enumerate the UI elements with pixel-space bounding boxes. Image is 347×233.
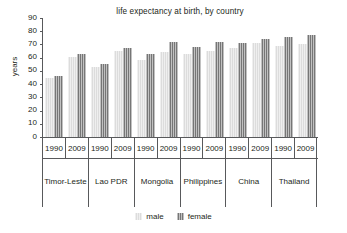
bar-group — [89, 18, 112, 137]
bar-male — [229, 48, 238, 137]
y-tick-label: 70 — [3, 39, 37, 48]
y-tick-label: 60 — [3, 52, 37, 61]
y-tick-label: 10 — [3, 118, 37, 127]
year-label-1990: 1990 — [134, 138, 157, 158]
bar-female — [215, 42, 224, 137]
bar-group — [43, 18, 66, 137]
year-label-1990: 1990 — [225, 138, 248, 158]
legend-swatch-female — [177, 213, 184, 220]
country-label-lao-pdr: Lao PDR — [88, 157, 134, 207]
y-tick-label: 0 — [3, 132, 37, 141]
year-label-2009: 2009 — [157, 138, 180, 158]
country-label-timor-leste: Timor-Leste — [42, 157, 88, 207]
bar-female — [100, 64, 109, 137]
bar-male — [206, 51, 215, 137]
year-label-2009: 2009 — [248, 138, 271, 158]
bar-group — [66, 18, 89, 137]
year-label-1990: 1990 — [180, 138, 203, 158]
bar-male — [275, 46, 284, 137]
legend-label: male — [146, 212, 163, 221]
bar-female — [192, 47, 201, 137]
country-label-mongolia: Mongolia — [134, 157, 180, 207]
year-label-2009: 2009 — [202, 138, 225, 158]
year-label-2009: 2009 — [111, 138, 134, 158]
bar-male — [298, 44, 307, 137]
bar-female — [261, 39, 270, 138]
bar-male — [68, 57, 77, 137]
bar-group — [272, 18, 295, 137]
y-tick-label: 50 — [3, 65, 37, 74]
bar-male — [91, 67, 100, 137]
bar-male — [137, 60, 146, 137]
life-expectancy-bar-chart: life expectancy at birth, by country yea… — [0, 0, 347, 233]
legend-item-female: female — [177, 212, 212, 221]
country-label-china: China — [225, 157, 271, 207]
bar-group — [203, 18, 226, 137]
bar-female — [146, 54, 155, 137]
bar-group — [158, 18, 181, 137]
bar-female — [307, 35, 316, 137]
y-tick-label: 90 — [3, 13, 37, 22]
bar-female — [123, 48, 132, 137]
bar-male — [114, 51, 123, 137]
bar-group — [135, 18, 158, 137]
bar-female — [169, 42, 178, 137]
bar-group — [112, 18, 135, 137]
bar-male — [160, 52, 169, 137]
bar-female — [77, 54, 86, 137]
bar-male — [183, 54, 192, 137]
y-tick-label: 40 — [3, 79, 37, 88]
legend-swatch-male — [135, 213, 142, 220]
bar-group — [226, 18, 249, 137]
y-tick-label: 20 — [3, 105, 37, 114]
chart-title: life expectancy at birth, by country — [60, 7, 300, 16]
year-label-1990: 1990 — [42, 138, 65, 158]
year-label-2009: 2009 — [294, 138, 317, 158]
bar-female — [238, 43, 247, 137]
bar-male — [45, 78, 54, 137]
chart-legend: malefemale — [0, 212, 347, 221]
bar-group — [295, 18, 318, 137]
bar-group — [181, 18, 204, 137]
country-label-row: Timor-LesteLao PDRMongoliaPhilippinesChi… — [42, 157, 318, 207]
legend-item-male: male — [135, 212, 163, 221]
bar-male — [252, 43, 261, 137]
bar-group — [249, 18, 272, 137]
year-label-1990: 1990 — [88, 138, 111, 158]
bar-female — [54, 76, 63, 137]
bars-container — [43, 18, 318, 137]
year-label-2009: 2009 — [65, 138, 88, 158]
year-label-row: 1990200919902009199020091990200919902009… — [42, 137, 318, 159]
y-tick-label: 80 — [3, 26, 37, 35]
country-label-philippines: Philippines — [180, 157, 226, 207]
plot-area: 0102030405060708090 — [43, 18, 318, 137]
year-label-1990: 1990 — [271, 138, 294, 158]
y-tick-label: 30 — [3, 92, 37, 101]
legend-label: female — [188, 212, 212, 221]
bar-female — [284, 37, 293, 137]
country-label-thailand: Thailand — [271, 157, 317, 207]
